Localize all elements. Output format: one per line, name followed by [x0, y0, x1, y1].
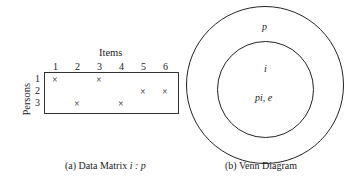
- cell-mark: ×: [74, 99, 80, 109]
- cell-mark: ×: [162, 87, 168, 97]
- row-header-2: 2: [35, 86, 40, 96]
- column-header-5: 5: [141, 62, 146, 72]
- cell-mark: ×: [118, 99, 124, 109]
- venn-caption: (b) Venn Diagram: [225, 161, 297, 171]
- matrix-title: Items: [99, 48, 122, 59]
- row-axis-label: Persons: [22, 79, 33, 119]
- cell-mark: ×: [140, 87, 146, 97]
- column-header-3: 3: [97, 62, 102, 72]
- matrix-box: [44, 72, 179, 114]
- column-header-2: 2: [75, 62, 80, 72]
- inner-sub-label: pi, e: [255, 93, 272, 103]
- column-header-4: 4: [119, 62, 124, 72]
- inner-circle: [217, 41, 314, 138]
- matrix-caption-text: (a) Data Matrix: [65, 160, 130, 171]
- cell-mark: ×: [52, 75, 58, 85]
- row-header-3: 3: [35, 98, 40, 108]
- inner-label: i: [264, 64, 267, 74]
- column-header-6: 6: [163, 62, 168, 72]
- cell-mark: ×: [96, 75, 102, 85]
- row-header-1: 1: [35, 74, 40, 84]
- column-header-1: 1: [53, 62, 58, 72]
- matrix-caption-math: i : p: [130, 160, 146, 171]
- outer-label: p: [262, 22, 267, 32]
- matrix-caption: (a) Data Matrix i : p: [65, 161, 146, 171]
